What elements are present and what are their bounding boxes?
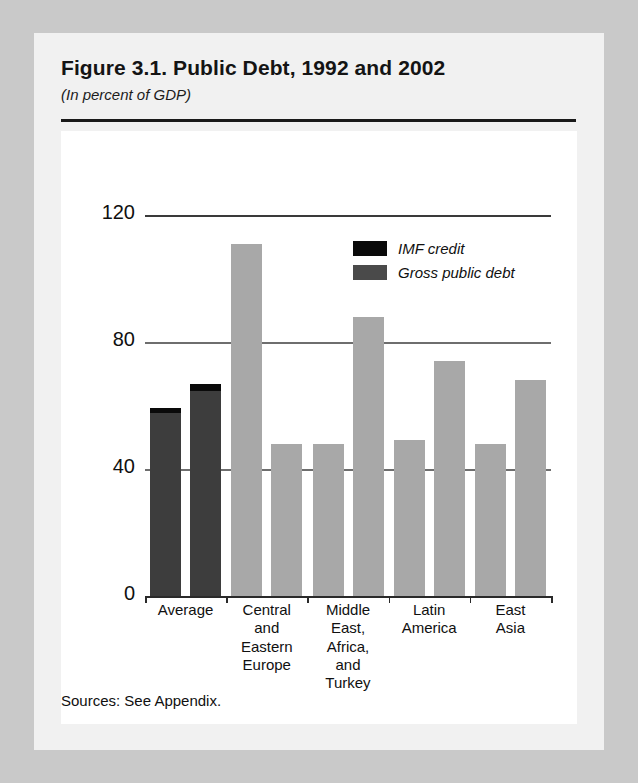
figure-subtitle: (In percent of GDP): [61, 86, 191, 103]
bar-latin-america-2002: [434, 361, 465, 596]
bar-segment-gross-public-debt: [515, 380, 546, 596]
bar-segment-gross-public-debt: [313, 444, 344, 596]
y-tick-label-40: 40: [69, 455, 135, 478]
sources-note: Sources: See Appendix.: [61, 692, 221, 709]
figure-card: Figure 3.1. Public Debt, 1992 and 2002 (…: [34, 33, 604, 750]
category-label-average: Average: [145, 601, 226, 619]
bar-segment-gross-public-debt: [475, 444, 506, 596]
category-label-line: East,: [307, 619, 388, 637]
bar-average-1992: [150, 408, 181, 596]
bar-central-and-eastern-europe-2002: [271, 444, 302, 596]
legend-swatch-imf-credit: [353, 241, 387, 256]
legend-swatch-gross-public-debt: [353, 265, 387, 280]
chart-legend: IMF credit Gross public debt: [353, 240, 515, 288]
category-label-line: Average: [145, 601, 226, 619]
y-tick-label-80: 80: [69, 328, 135, 351]
category-label-line: Central: [226, 601, 307, 619]
chart-plot-area: 04080120 AverageCentralandEasternEuropeM…: [61, 131, 577, 724]
bar-east-asia-2002: [515, 380, 546, 596]
legend-item-imf-credit: IMF credit: [353, 240, 515, 257]
bar-central-and-eastern-europe-1992: [231, 244, 262, 596]
bar-segment-gross-public-debt: [190, 391, 221, 596]
y-tick-label-0: 0: [69, 582, 135, 605]
y-tick-label-120: 120: [69, 201, 135, 224]
page-title: Figure 3.1. Public Debt, 1992 and 2002: [61, 56, 445, 80]
bar-series-container: [145, 131, 551, 598]
bar-segment-gross-public-debt: [231, 244, 262, 596]
legend-label-imf-credit: IMF credit: [398, 240, 464, 257]
category-label-middle-east-africa-and-turkey: MiddleEast,Africa,andTurkey: [307, 601, 388, 692]
category-label-line: and: [307, 656, 388, 674]
bar-segment-gross-public-debt: [150, 413, 181, 596]
category-label-line: Turkey: [307, 674, 388, 692]
x-axis-tick-end: [551, 596, 553, 603]
bar-segment-gross-public-debt: [271, 444, 302, 596]
category-label-line: Asia: [470, 619, 551, 637]
bar-segment-gross-public-debt: [353, 317, 384, 596]
legend-item-gross-public-debt: Gross public debt: [353, 264, 515, 281]
bar-middle-east-africa-and-turkey-2002: [353, 317, 384, 596]
bar-middle-east-africa-and-turkey-1992: [313, 444, 344, 596]
bar-segment-gross-public-debt: [394, 440, 425, 596]
category-label-line: Eastern: [226, 638, 307, 656]
category-label-line: Middle: [307, 601, 388, 619]
category-label-line: Latin: [389, 601, 470, 619]
title-divider: [61, 119, 576, 122]
bar-latin-america-1992: [394, 440, 425, 596]
bar-segment-gross-public-debt: [434, 361, 465, 596]
category-label-line: Europe: [226, 656, 307, 674]
category-label-line: and: [226, 619, 307, 637]
category-label-line: Africa,: [307, 638, 388, 656]
category-label-line: East: [470, 601, 551, 619]
category-label-central-and-eastern-europe: CentralandEasternEurope: [226, 601, 307, 674]
chart-axes: 04080120 AverageCentralandEasternEuropeM…: [61, 131, 577, 724]
category-label-east-asia: EastAsia: [470, 601, 551, 638]
category-label-latin-america: LatinAmerica: [389, 601, 470, 638]
legend-label-gross-public-debt: Gross public debt: [398, 264, 515, 281]
bar-east-asia-1992: [475, 444, 506, 596]
bar-average-2002: [190, 384, 221, 596]
bar-segment-imf-credit: [190, 384, 221, 391]
category-label-line: America: [389, 619, 470, 637]
